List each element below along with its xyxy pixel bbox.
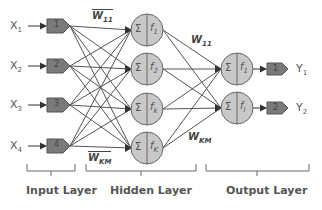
input-node-3-num: 3 [54,100,59,108]
weight-label-input-bottom: WKM [88,151,111,166]
hidden-2-func: f2 [150,62,158,75]
hidden-K-func: fK [150,141,158,154]
input-bracket [27,164,75,176]
hidden-1-sum: Σ [135,24,141,34]
output-2-func: fl [240,101,245,114]
input-arrows [28,26,46,146]
input-label-x1: X1 [10,20,22,34]
input-node-2-num: 2 [54,61,59,69]
output-layer-label: Output Layer [226,184,307,197]
output-1-func: f1 [240,62,248,75]
hidden-k-sum: Σ [135,103,141,113]
input-label-x3: X3 [10,99,22,113]
hidden-1-func: f1 [150,23,158,36]
input-label-x4: X4 [10,140,22,154]
output-arrows [253,69,266,108]
hidden-2-sum: Σ [135,63,141,73]
output-2-sum: Σ [225,102,231,112]
input-label-x2: X2 [10,60,22,74]
output-label-y1: Y1 [296,63,307,77]
input-layer-label: Input Layer [26,184,97,197]
input-hidden-connections [70,26,131,148]
output-box-2-num: 2 [273,104,278,112]
layer-brackets [27,164,309,176]
input-node-4-num: 4 [54,141,59,149]
hidden-K-sum: Σ [135,142,141,152]
input-node-1-num: 1 [54,21,59,29]
hidden-layer-label: Hidden Layer [110,184,192,197]
output-bracket [206,164,309,176]
weight-label-hidden-bottom: WKM [188,131,211,145]
output-box-1-num: 1 [273,65,278,73]
input-nodes [47,19,70,153]
weight-label-input-top: W11 [92,9,113,24]
hidden-k-func: fk [150,102,158,115]
weight-label-hidden-top: W11 [191,34,212,48]
output-label-y2: Y2 [296,102,307,116]
output-1-sum: Σ [225,63,231,73]
